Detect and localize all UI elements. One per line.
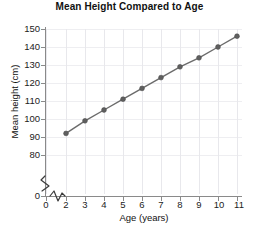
series-line-mean-height	[66, 36, 237, 133]
data-point	[83, 118, 88, 123]
data-point	[159, 75, 164, 80]
axis-break-x-icon	[50, 191, 65, 201]
chart-container: Mean Height Compared to Age 150 140	[0, 0, 259, 232]
data-point	[64, 131, 69, 136]
data-point	[216, 45, 221, 50]
axis-break-y-icon	[41, 176, 49, 191]
series-overlay	[0, 0, 259, 232]
data-point	[235, 34, 240, 39]
data-point	[140, 86, 145, 91]
data-point	[197, 55, 202, 60]
data-point	[102, 108, 107, 113]
data-point	[178, 64, 183, 69]
data-point	[121, 97, 126, 102]
